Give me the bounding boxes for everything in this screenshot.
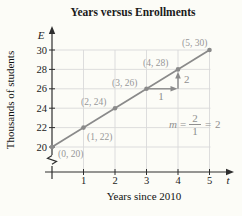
point-label-1: (1, 22)	[87, 132, 112, 143]
y-tick-30: 30	[37, 45, 48, 56]
point-label-0: (0, 20)	[58, 149, 83, 160]
slope-m: m	[169, 118, 177, 130]
y-axis-arrow-icon	[49, 26, 55, 34]
slope-equals-2: =	[205, 118, 211, 130]
data-point-2	[113, 106, 118, 111]
slope-equation: m = 2 1 = 2	[169, 112, 221, 137]
rise-label: 2	[184, 73, 190, 85]
y-axis-title: Thousands of students	[4, 51, 16, 149]
series-line	[52, 50, 210, 147]
point-label-4: (4, 28)	[143, 58, 168, 69]
y-tick-26: 26	[37, 83, 48, 94]
x-tick-labels: 1 2 3 4 5	[81, 175, 212, 186]
chart-figure: 1 2 (0, 20) (1, 22) (2, 24) (3, 26) (4, …	[0, 0, 242, 216]
y-axis-break-icon	[48, 156, 57, 165]
data-point-5	[207, 48, 212, 53]
x-tick-3: 3	[144, 175, 149, 186]
slope-equals-1: =	[180, 118, 186, 130]
point-label-3: (3, 26)	[112, 78, 137, 89]
data-series	[50, 48, 212, 150]
y-axis-letter: E	[37, 29, 45, 41]
slope-denominator: 1	[192, 125, 198, 137]
slope-result: 2	[215, 118, 221, 130]
data-point-4	[176, 67, 181, 72]
x-axis-letter: t	[226, 174, 230, 186]
point-labels: (0, 20) (1, 22) (2, 24) (3, 26) (4, 28) …	[58, 38, 207, 160]
data-point-0	[50, 145, 55, 150]
data-point-1	[81, 125, 86, 130]
y-tick-20: 20	[37, 142, 48, 153]
line-chart: 1 2 (0, 20) (1, 22) (2, 24) (3, 26) (4, …	[0, 0, 242, 216]
y-tick-labels: 30 28 26 24 22 20	[37, 45, 48, 153]
y-tick-22: 22	[37, 122, 48, 133]
run-arrow-icon	[171, 86, 178, 92]
x-tick-1: 1	[81, 175, 86, 186]
point-label-5: (5, 30)	[182, 38, 207, 49]
y-tick-24: 24	[37, 103, 48, 114]
x-tick-4: 4	[175, 175, 181, 186]
slope-numerator: 2	[192, 112, 198, 124]
x-axis-title: Years since 2010	[107, 190, 182, 202]
point-label-2: (2, 24)	[81, 97, 106, 108]
x-tick-5: 5	[207, 175, 212, 186]
chart-title: Years versus Enrollments	[70, 6, 196, 18]
rise-arrow-icon	[175, 72, 181, 79]
y-tick-28: 28	[37, 64, 48, 75]
x-tick-2: 2	[112, 175, 117, 186]
run-label: 1	[158, 90, 164, 102]
